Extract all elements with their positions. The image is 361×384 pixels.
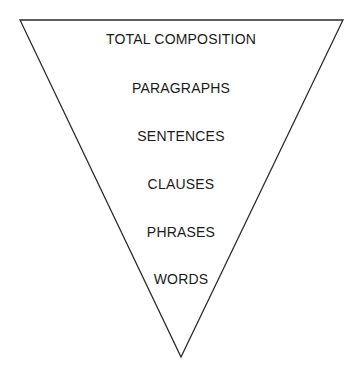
composition-hierarchy-diagram: TOTAL COMPOSITION PARAGRAPHS SENTENCES C… bbox=[0, 0, 361, 384]
level-clauses: CLAUSES bbox=[0, 176, 361, 192]
level-sentences: SENTENCES bbox=[0, 128, 361, 144]
level-total-composition: TOTAL COMPOSITION bbox=[0, 31, 361, 47]
level-phrases: PHRASES bbox=[0, 224, 361, 240]
inverted-triangle-shape bbox=[0, 0, 361, 384]
level-paragraphs: PARAGRAPHS bbox=[0, 80, 361, 96]
level-words: WORDS bbox=[0, 271, 361, 287]
